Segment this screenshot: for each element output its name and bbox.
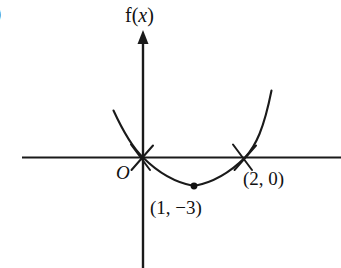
y-axis-label-prefix: f(	[125, 4, 138, 26]
y-axis-label-suffix: )	[147, 4, 154, 26]
minimum-point-dot	[191, 183, 198, 190]
graph-drawing	[0, 0, 341, 268]
root-coordinate-label: (2, 0)	[243, 169, 284, 188]
y-axis-label-variable: x	[138, 4, 147, 26]
figure-canvas: ) f(x) O (2, 0) (1, −3)	[0, 0, 341, 268]
origin-label: O	[116, 163, 130, 182]
y-axis-label: f(x)	[125, 5, 154, 25]
minimum-coordinate-label: (1, −3)	[150, 198, 202, 217]
y-axis-arrow-icon	[138, 30, 149, 44]
